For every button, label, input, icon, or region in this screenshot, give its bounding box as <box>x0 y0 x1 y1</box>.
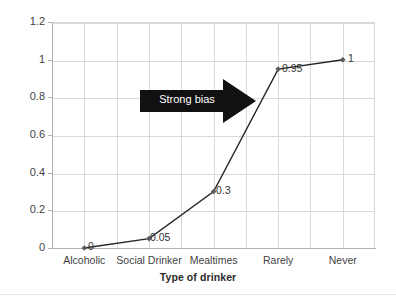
data-label-rarely: 0.95 <box>282 63 302 74</box>
gridline-h-0.4 <box>52 174 374 175</box>
horizontal-gridlines <box>52 23 374 248</box>
y-tick-label-0.2: 0.2 <box>0 204 45 215</box>
gridline-v-1 <box>84 23 85 248</box>
y-tick-mark-0.0 <box>48 248 52 249</box>
gridline-h-0.2 <box>52 211 374 212</box>
y-tick-label-0.8: 0.8 <box>0 91 45 102</box>
gridline-h-1.2 <box>52 23 374 24</box>
x-tick-label-never: Never <box>329 254 357 266</box>
gridline-v-2 <box>117 23 118 248</box>
x-axis-title: Type of drinker <box>0 271 396 283</box>
bottom-divider <box>0 294 396 295</box>
data-label-alcoholic: 0 <box>88 241 94 252</box>
plot-area <box>52 22 375 248</box>
gridline-v-8 <box>310 23 311 248</box>
data-label-never: 1 <box>348 53 354 64</box>
y-tick-mark-0.8 <box>48 97 52 98</box>
gridline-v-3 <box>149 23 150 248</box>
y-axis-line <box>52 22 53 249</box>
y-tick-label-0.6: 0.6 <box>0 129 45 140</box>
y-tick-label-0.4: 0.4 <box>0 167 45 178</box>
gridline-h-0.6 <box>52 136 374 137</box>
gridline-v-5 <box>214 23 215 248</box>
y-tick-mark-1.2 <box>48 22 52 23</box>
gridline-h-1.0 <box>52 61 374 62</box>
data-label-social-drinker: 0.05 <box>150 232 170 243</box>
gridline-v-6 <box>246 23 247 248</box>
x-tick-label-rarely: Rarely <box>263 254 293 266</box>
gridline-v-7 <box>278 23 279 248</box>
y-tick-label-1.2: 1.2 <box>0 16 45 27</box>
right-arrow-icon <box>140 79 256 123</box>
y-tick-mark-0.2 <box>48 210 52 211</box>
x-tick-label-social-drinker: Social Drinker <box>116 254 181 266</box>
x-axis-line <box>52 248 376 249</box>
vertical-gridlines <box>52 23 374 248</box>
x-tick-label-mealtimes: Mealtimes <box>190 254 238 266</box>
y-tick-label-0.0: 0 <box>0 242 45 253</box>
gridline-v-9 <box>343 23 344 248</box>
y-tick-mark-0.4 <box>48 173 52 174</box>
y-tick-mark-0.6 <box>48 135 52 136</box>
line-chart: 1.2 1 0.8 0.6 0.4 0.2 0 Alcoholic Social… <box>0 0 396 299</box>
x-tick-label-alcoholic: Alcoholic <box>63 254 105 266</box>
gridline-v-4 <box>181 23 182 248</box>
y-tick-mark-1.0 <box>48 60 52 61</box>
y-tick-label-1.0: 1 <box>0 54 45 65</box>
data-label-mealtimes: 0.3 <box>216 185 231 196</box>
strong-bias-arrow-annotation: Strong bias <box>140 79 256 123</box>
